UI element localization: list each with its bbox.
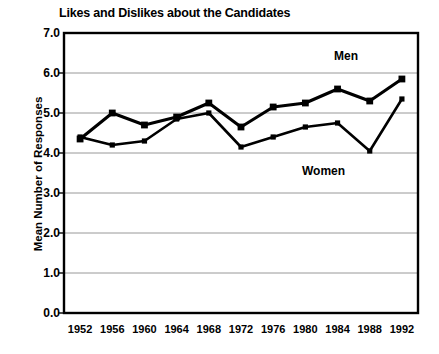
gridlines <box>58 73 418 313</box>
data-point-marker <box>206 110 211 115</box>
data-point-marker <box>367 148 372 153</box>
plot-area <box>0 0 439 354</box>
data-point-marker <box>270 104 277 111</box>
data-point-marker <box>141 122 148 129</box>
x-tick-label: 1988 <box>357 323 381 335</box>
x-tick-label: 1972 <box>229 323 253 335</box>
data-point-marker <box>335 120 340 125</box>
data-point-marker <box>271 134 276 139</box>
x-tick-label: 1960 <box>132 323 156 335</box>
data-point-marker <box>334 86 341 93</box>
data-point-marker <box>238 124 245 131</box>
data-point-marker <box>174 116 179 121</box>
x-tick-label: 1964 <box>164 323 188 335</box>
series-label-women: Women <box>302 164 345 178</box>
data-point-marker <box>302 100 309 107</box>
x-tick-label: 1976 <box>261 323 285 335</box>
chart-container: Likes and Dislikes about the Candidates … <box>0 0 439 354</box>
data-series-layer <box>77 76 406 154</box>
data-point-marker <box>399 96 404 101</box>
x-tick-label: 1984 <box>325 323 349 335</box>
x-tick-label: 1980 <box>293 323 317 335</box>
data-point-marker <box>238 144 243 149</box>
plot-frame <box>64 33 418 313</box>
data-point-marker <box>205 100 212 107</box>
data-point-marker <box>142 138 147 143</box>
data-point-marker <box>110 142 115 147</box>
data-point-marker <box>303 124 308 129</box>
data-point-marker <box>366 98 373 105</box>
x-tick-label: 1968 <box>197 323 221 335</box>
data-point-marker <box>109 110 116 117</box>
series-label-men: Men <box>334 49 358 63</box>
x-tick-label: 1992 <box>390 323 414 335</box>
data-point-marker <box>77 134 82 139</box>
x-tick-label: 1956 <box>100 323 124 335</box>
x-tick-label: 1952 <box>68 323 92 335</box>
data-point-marker <box>399 76 406 83</box>
